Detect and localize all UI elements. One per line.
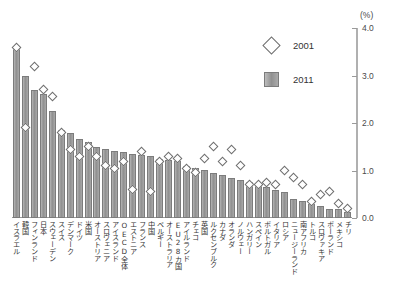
bar-rect [263,187,270,218]
bar-rect [58,130,65,218]
x-label-5: スウェーデン [48,221,56,261]
diamond-marker-icon [29,61,39,71]
marker-30 [271,181,280,188]
bar-13 [119,152,128,219]
x-label-20: アイルランド [182,221,190,261]
y-tick [352,28,357,29]
marker-32 [289,174,298,181]
bar-rect [192,168,199,218]
bar-rect [228,178,235,218]
x-label-16: 中国 [147,221,155,234]
x-label-13: OECD全体 [120,221,128,269]
bar-28 [254,185,263,218]
bar-18 [164,160,173,218]
bar-27 [245,182,254,218]
bar-37 [334,209,343,218]
bar-22 [200,170,209,218]
bar-8 [75,139,84,218]
diamond-marker-icon [235,161,245,171]
bar-38 [343,212,352,218]
y-axis: 0.01.02.03.04.0 [356,28,358,218]
y-tick [352,218,357,219]
bar-rect [147,156,154,218]
x-label-30: イタリア [272,221,280,248]
diamond-marker-icon [298,180,308,190]
chart-container: 2001 2011 (%) 0.01.02.03.04.0 イスラエル韓国フィン… [0,0,395,306]
diamond-marker-icon [208,142,218,152]
bar-rect [219,175,226,218]
bar-31 [280,192,289,218]
x-label-10: オーストリア [93,221,101,261]
x-label-32: ニュージーランド [290,221,298,275]
x-label-38: チリ [344,221,352,234]
x-label-28: スペイン [254,221,262,248]
diamond-marker-icon [217,156,227,166]
bar-rect [156,159,163,218]
bar-5 [48,111,57,218]
x-label-7: デンマーク [66,221,74,255]
bar-16 [146,156,155,218]
marker-23 [209,143,218,150]
y-tick-label-4.0: 4.0 [362,24,374,33]
x-label-2: 韓国 [21,221,29,234]
x-label-22: 英国 [200,221,208,234]
bar-35 [316,206,325,218]
diamond-marker-icon [262,177,272,187]
x-label-19: EU28カ国 [174,221,182,269]
bar-rect [129,154,136,218]
diamond-marker-icon [47,92,57,102]
marker-31 [280,167,289,174]
y-tick-label-3.0: 3.0 [362,72,374,81]
x-axis-labels: イスラエル韓国フィンランド日本スウェーデンスイスデンマークドイツ米国オーストリア… [12,221,352,305]
bar-19 [173,161,182,218]
x-label-3: フィンランド [30,221,38,261]
bar-24 [218,175,227,218]
bar-7 [66,133,75,219]
y-tick-label-2.0: 2.0 [362,119,374,128]
diamond-marker-icon [199,154,209,164]
diamond-marker-icon [289,173,299,183]
x-label-4: 日本 [39,221,47,234]
x-label-21: チェコ [191,221,199,241]
bar-9 [84,142,93,218]
bar-3 [30,90,39,218]
bar-33 [298,201,307,218]
x-label-11: スロヴェニア [102,221,110,261]
x-label-23: ルクセンブルク [209,221,217,268]
y-tick-label-1.0: 1.0 [362,167,374,176]
bar-rect [255,185,262,218]
marker-15 [137,148,146,155]
x-label-15: フランス [138,221,146,248]
bar-rect [102,149,109,218]
y-axis-unit-label: (%) [360,11,373,20]
bar-rect [210,173,217,218]
bar-34 [307,204,316,218]
bar-17 [155,159,164,218]
marker-5 [48,93,57,100]
y-tick [352,123,357,124]
x-label-14: エストニア [129,221,137,255]
marker-36 [325,188,334,195]
bar-rect [76,139,83,218]
marker-18 [164,153,173,160]
x-label-35: スロヴァキア [317,221,325,261]
bar-rect [299,201,306,218]
bar-20 [182,166,191,218]
bar-rect [281,192,288,218]
bar-10 [93,147,102,218]
marker-33 [298,181,307,188]
x-label-31: ロシア [281,221,289,241]
bar-rect [272,190,279,219]
bar-rect [290,199,297,218]
y-tick-label-0.0: 0.0 [362,214,374,223]
bar-25 [227,178,236,218]
bar-rect [111,151,118,218]
bar-36 [325,209,334,219]
diamond-marker-icon [325,187,335,197]
x-label-29: ポルトガル [263,221,271,255]
marker-22 [200,155,209,162]
bar-rect [40,94,47,218]
bar-15 [137,155,146,218]
x-label-24: カナダ [218,221,226,241]
bar-rect [174,161,181,218]
